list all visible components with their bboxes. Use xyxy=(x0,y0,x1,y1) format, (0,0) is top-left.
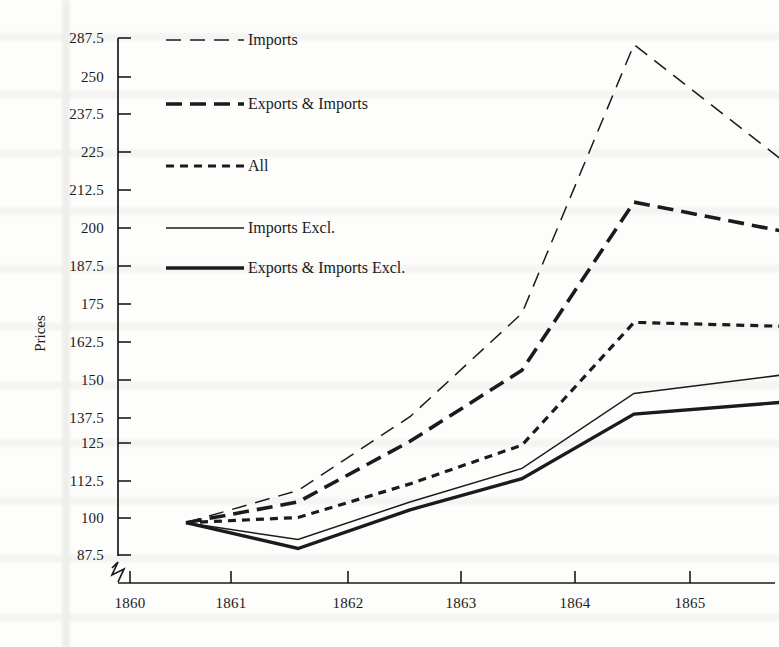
chart-canvas xyxy=(0,0,779,647)
series-line-exports-imports xyxy=(186,202,779,523)
series-line-imports xyxy=(186,45,779,523)
series-line-exports-imports-excl xyxy=(186,403,779,549)
series-line-imports-excl xyxy=(186,375,779,539)
axis-break-glyph xyxy=(112,562,124,582)
x-axis-ticks xyxy=(130,571,690,583)
y-axis-ticks xyxy=(118,38,131,555)
price-index-line-chart: Prices 287.5 250 237.5 225 212.5 200 187… xyxy=(0,0,779,647)
series-line-all xyxy=(186,322,779,522)
